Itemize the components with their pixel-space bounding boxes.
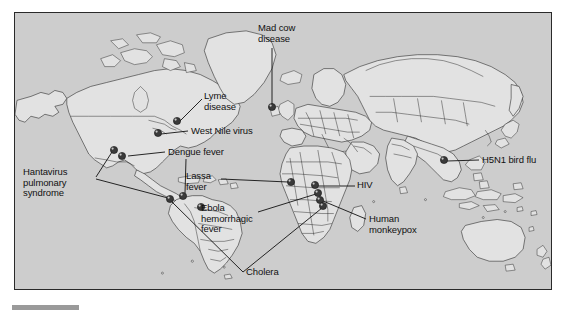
disease-outbreak-map-figure: Mad cow disease Lyme disease West Nile v… bbox=[0, 0, 563, 316]
map-frame bbox=[14, 12, 552, 290]
label-dengue-fever: Dengue fever bbox=[168, 147, 224, 158]
world-map-graphic bbox=[15, 13, 551, 289]
label-lyme-disease: Lyme disease bbox=[204, 91, 236, 112]
label-cholera: Cholera bbox=[246, 267, 279, 278]
label-human-monkeypox: Human monkeypox bbox=[369, 214, 417, 235]
label-hiv: HIV bbox=[357, 180, 373, 191]
label-west-nile-virus: West Nile virus bbox=[191, 126, 253, 137]
label-hantavirus-pulmonary-syndrome: Hantavirus pulmonary syndrome bbox=[23, 167, 67, 199]
caption-rule bbox=[12, 305, 79, 310]
label-lassa-fever: Lassa fever bbox=[186, 171, 211, 192]
label-mad-cow-disease: Mad cow disease bbox=[258, 23, 295, 44]
label-ebola-hemorrhagic-fever: Ebola hemorrhagic fever bbox=[201, 203, 253, 235]
label-h5n1-bird-flu: H5N1 bird flu bbox=[482, 155, 536, 166]
